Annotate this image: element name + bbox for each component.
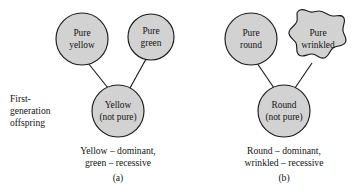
caption-panel-a: Yellow – dominant, green – recessive [47, 145, 189, 169]
side-label-line2: generation [10, 105, 51, 117]
caption-panel-b-line1: Round – dominant, [213, 145, 352, 157]
node-round-not-pure-label-line2: (not pure) [265, 112, 302, 123]
caption-panel-b: Round – dominant, wrinkled – recessive [213, 145, 352, 169]
panel-letter-a: (a) [47, 172, 189, 184]
caption-panel-a-line2: green – recessive [47, 157, 189, 169]
node-round-not-pure-label-line1: Round [271, 100, 296, 110]
node-pure-wrinkled-label-line1: Pure [309, 28, 326, 38]
panel-letter-b: (b) [213, 172, 352, 184]
first-generation-offspring-label: First- generation offspring [10, 93, 51, 130]
node-pure-green [128, 14, 174, 60]
caption-panel-a-line1: Yellow – dominant, [47, 145, 189, 157]
side-label-line1: First- [10, 93, 51, 105]
inheritance-diagram: Pure yellow Pure green Yellow (not pure)… [0, 0, 352, 193]
node-pure-yellow-label-line1: Pure [73, 28, 90, 38]
link-pure-round-to-offspring [257, 63, 274, 88]
caption-panel-b-line2: wrinkled – recessive [213, 157, 352, 169]
node-round-not-pure [258, 85, 310, 137]
node-pure-round-label-line2: round [240, 40, 262, 50]
node-yellow-not-pure-label-line2: (not pure) [99, 112, 136, 123]
node-yellow-not-pure [92, 85, 144, 137]
node-pure-yellow [56, 13, 108, 65]
node-pure-green-label-line2: green [141, 38, 162, 48]
side-label-line3: offspring [10, 117, 51, 129]
link-pure-yellow-to-offspring [88, 63, 108, 88]
node-pure-yellow-label-line2: yellow [69, 40, 95, 50]
link-pure-green-to-offspring [130, 59, 146, 88]
node-pure-wrinkled-label-line2: wrinkled [301, 40, 335, 50]
node-pure-round-label-line1: Pure [242, 28, 259, 38]
node-pure-round [225, 13, 277, 65]
node-pure-green-label-line1: Pure [142, 26, 159, 36]
node-yellow-not-pure-label-line1: Yellow [105, 100, 132, 110]
link-pure-wrinkled-to-offspring [295, 63, 312, 88]
